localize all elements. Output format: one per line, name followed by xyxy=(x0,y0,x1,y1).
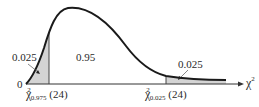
chi-superscript: 2 xyxy=(146,86,150,94)
chi-superscript: 2 xyxy=(251,75,255,83)
df-label: (24) xyxy=(49,88,67,100)
df-label: (24) xyxy=(168,88,186,100)
density-curve xyxy=(26,8,226,84)
x-axis-arrowhead-icon xyxy=(238,82,244,87)
center-area-label: 0.95 xyxy=(76,52,95,63)
chi-superscript: 2 xyxy=(27,86,31,94)
x-axis-label: χ2 xyxy=(246,78,255,91)
origin-label: 0 xyxy=(17,79,23,90)
left-critical-value-label: χ20.975 (24) xyxy=(26,89,68,102)
right-tail-area-label: 0.025 xyxy=(178,59,203,70)
right-leader-line xyxy=(180,70,188,78)
right-critical-value-label: χ20.025 (24) xyxy=(145,89,187,102)
chi-subscript: 0.975 xyxy=(31,94,47,102)
chi-subscript: 0.025 xyxy=(150,94,166,102)
left-tail-area-label: 0.025 xyxy=(12,52,37,63)
chi-square-diagram: 0 0.025 0.95 0.025 χ20.975 (24) χ20.025 … xyxy=(0,0,259,107)
